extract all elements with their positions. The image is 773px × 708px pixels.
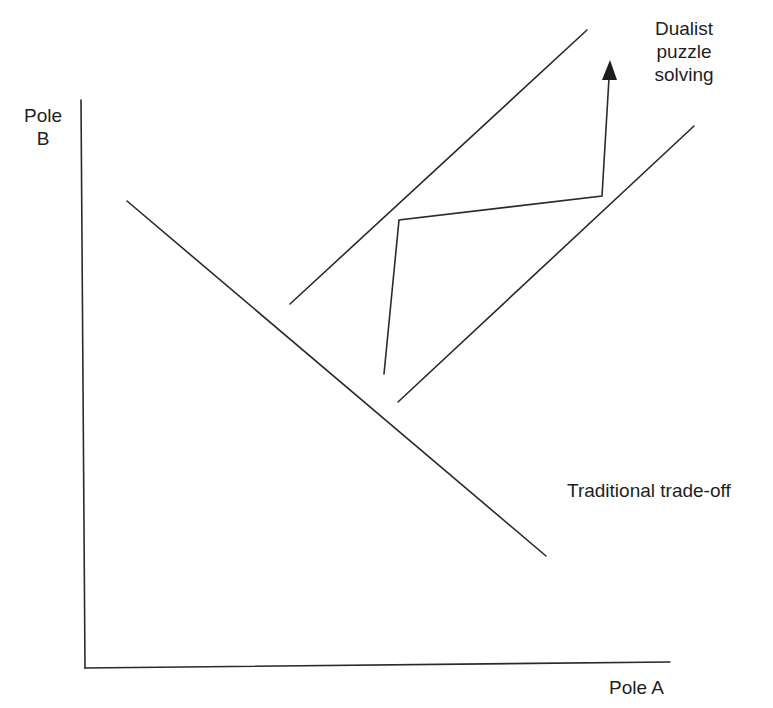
y-axis (81, 100, 85, 668)
arrow-head-icon (602, 60, 617, 80)
x-axis-label: Pole A (609, 676, 664, 699)
dualist-path (384, 78, 609, 374)
dualist-label-line-2: puzzle (644, 40, 724, 63)
x-axis (85, 662, 670, 668)
y-axis-label-line-1: Pole (20, 104, 66, 127)
dualist-label: Dualist puzzle solving (644, 17, 724, 86)
upper-boundary-line (290, 30, 587, 304)
traditional-trade-off-label: Traditional trade-off (567, 479, 731, 502)
lower-boundary-line (398, 126, 694, 402)
trade-off-line (127, 201, 546, 556)
dualist-label-line-3: solving (644, 63, 724, 86)
dualist-label-line-1: Dualist (644, 17, 724, 40)
y-axis-label: Pole B (20, 104, 66, 150)
y-axis-label-line-2: B (20, 127, 66, 150)
diagram-canvas (0, 0, 773, 708)
